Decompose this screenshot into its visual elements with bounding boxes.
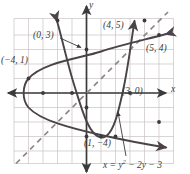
dot-4-5 [143,19,147,23]
point-label-4-5: (4, 5) [103,21,124,31]
equation-label: x = y2 − 2y − 3 [103,159,162,171]
dot-m2-5 [56,19,60,23]
dot-0-3 [85,48,89,52]
dot-m3-0 [41,91,45,95]
x-axis-label: x [171,85,175,95]
dot-5-m2 [157,120,161,124]
parabola-vertical [57,21,135,138]
dot-m1-0 [70,91,74,95]
equation-suffix: − 2y − 3 [126,160,162,170]
point-label-5-4: (5, 4) [146,44,167,54]
coordinate-graph-figure: (0, 3) (4, 5) (5, 4) (−4, 1) (3, 0) (1, … [0,0,190,174]
y-axis-label: y [89,1,93,11]
dot-5-4 [157,33,161,37]
point-label-0-3: (0, 3) [33,31,54,41]
dot-0-m1 [85,106,89,110]
point-label-m4-1: (−4, 1) [1,56,28,66]
leader-equation [118,112,126,156]
point-label-1-m4: (1, −4) [84,139,111,149]
dot-2-m3 [114,135,118,139]
point-label-3-0: (3, 0) [122,87,143,97]
equation-prefix: x = y [103,160,123,170]
dot-m4-1 [27,77,31,81]
